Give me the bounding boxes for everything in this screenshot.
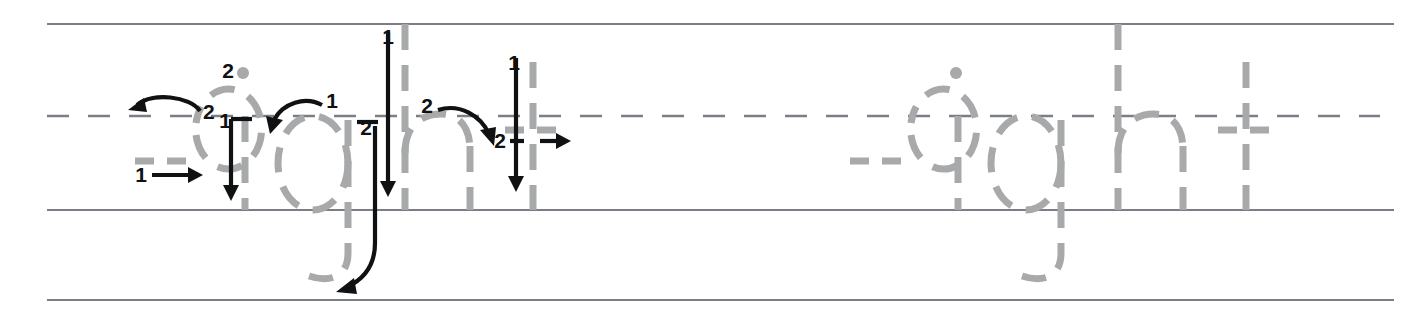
stroke-arrow-g-1-head: [266, 116, 283, 134]
trace-letter-t: [1218, 62, 1276, 210]
demo-letter-i: [237, 67, 249, 210]
stroke-label-e-2: 2: [203, 100, 215, 123]
trace-letter-g: [991, 116, 1061, 279]
trace-letter-i-dot: [950, 67, 962, 79]
stroke-arrow-e-1-head: [188, 167, 203, 183]
guide-letter-h-arch: [405, 114, 470, 153]
trace-letter-g-bowl: [991, 116, 1061, 210]
stroke-label-h-2: 2: [421, 94, 433, 117]
trace-letter-e-bowl: [911, 89, 977, 169]
stroke-arrow-g-2-head: [336, 278, 357, 294]
trace-letter-g-tail: [1022, 120, 1061, 279]
stroke-arrow-e-2-head: [128, 98, 147, 112]
stroke-label-i-2: 2: [222, 59, 234, 82]
handwriting-worksheet: 1 2 1 2: [0, 0, 1422, 326]
stroke-arrow-i-1-head: [223, 185, 239, 201]
stroke-arrow-t-1-head: [508, 176, 524, 192]
trace-letter-h-arch: [1118, 114, 1183, 153]
demo-letter-g: [278, 116, 348, 279]
trace-letter-i: [950, 67, 962, 210]
stroke-arrow-h-1-head: [380, 181, 396, 197]
stroke-label-g-1: 1: [326, 89, 338, 112]
trace-word-eight: [850, 24, 1276, 279]
guide-letter-i-dot: [237, 67, 249, 79]
demo-letter-t: [505, 62, 563, 210]
demo-word-eight: 1 2 1 2: [128, 24, 571, 294]
stroke-label-t-2: 2: [494, 129, 506, 152]
guide-letter-g-bowl: [278, 116, 348, 210]
stroke-label-g-2: 2: [360, 116, 372, 139]
worksheet-canvas: 1 2 1 2: [0, 0, 1422, 326]
stroke-arrow-t-2-head: [556, 133, 571, 149]
stroke-label-e-1: 1: [135, 163, 147, 186]
rule-lines: [47, 24, 1394, 300]
guide-letter-g-tail: [309, 120, 348, 279]
stroke-arrow-e-2-shaft: [137, 97, 200, 111]
